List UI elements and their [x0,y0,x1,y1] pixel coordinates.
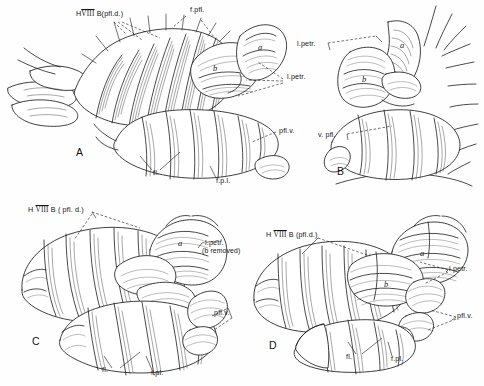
label-a-f-p-l: f.p.l. [216,177,230,185]
panel-d-ventral-mass [294,320,415,374]
label-a-lobe-a: a [258,42,262,52]
panel-letter-d: D [269,339,277,351]
label-c-pfl-v: pfl.v. [214,309,230,317]
panel-a-peduncle-leaflets [8,48,88,126]
panel-a-accessory-lobules [255,156,289,180]
label-c-h-viii-b-pfl-d: H VIII B ( pfl. d.) [28,206,84,214]
label-a-fl: fl. [153,169,159,177]
label-a-l-petr: l.petr. [287,73,306,81]
panel-letter-b: B [337,165,344,177]
panel-letter-c: C [32,335,40,347]
label-b-v-pfl: v. pfl. [318,131,336,139]
label-b-lobe-b: b [362,74,366,84]
label-b-l-petr: l.petr. [297,40,316,48]
panel-d-drawing [254,215,468,374]
label-a-roman-numeral: VIII [81,10,94,18]
panel-b-drawing [324,6,478,186]
panel-b-connecting-bands [382,72,421,106]
label-a-lobe-b: b [213,63,217,73]
label-a-hviii-b-pfl-d: HVIII B(pfl.d.) [76,10,123,18]
label-d-roman-numeral: VIII [274,231,287,239]
label-d-lobe-a: a [420,248,424,258]
label-d-h-prefix: H [266,230,274,239]
label-d-f-pl: f.pl. [391,355,403,363]
panel-a-drawing [8,14,289,179]
label-d-h-viii-b-pfl-d: H VIII B (pfl.d.) [266,231,317,239]
label-c-lobe-a: a [178,238,182,248]
label-c-h-prefix: H [28,205,36,214]
panel-b-ventral-mass [324,110,460,180]
label-a-pfl-v: pfl.v. [279,127,295,135]
label-a-f-pfl: f.pfl. [190,6,204,14]
label-c-pfl-suffix: B ( pfl. d.) [49,205,84,214]
label-c-roman-numeral: VIII [36,206,49,214]
label-d-l-petr: l.petr. [449,265,468,273]
anatomical-line-drawing: .o{fill:#ffffff;stroke:#1c1c1c;stroke-wi… [0,0,484,386]
label-c-f-pl: f.pl. [151,369,163,377]
label-c-l-petr: l.petr. [205,239,224,247]
panel-letter-a: A [76,146,83,158]
label-b-lobe-a: a [400,40,404,50]
panel-c-drawing [22,212,232,375]
label-c-b-removed: (b removed) [202,247,240,255]
label-d-fl: fl. [346,353,352,361]
label-d-lobe-b: b [384,279,388,289]
label-c-fl: fl. [102,366,108,374]
label-d-pfl-v: pfl.v. [457,312,473,320]
label-a-pfl-suffix: B(pfl.d.) [95,9,124,18]
illustration-plate: .o{fill:#ffffff;stroke:#1c1c1c;stroke-wi… [0,0,484,386]
label-d-pfl-suffix: B (pfl.d.) [287,230,318,239]
